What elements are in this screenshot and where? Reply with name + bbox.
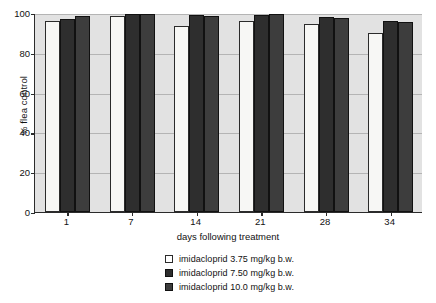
gridline [35, 94, 422, 95]
y-tick-mark [31, 94, 35, 95]
bar [60, 19, 75, 212]
y-tick-label: 100 [4, 9, 30, 19]
gridline [35, 133, 422, 134]
legend-swatch-icon [165, 255, 173, 263]
plot-inner [35, 14, 422, 212]
x-axis-title: days following treatment [34, 231, 422, 242]
bar [254, 15, 269, 212]
y-tick-mark [31, 133, 35, 134]
y-tick-label: 80 [4, 49, 30, 59]
bar-group [45, 14, 90, 212]
y-tick-label: 60 [4, 89, 30, 99]
chart-legend: imidacloprid 3.75 mg/kg b.w.imidacloprid… [165, 252, 405, 294]
x-axis-tick-labels: 1714212834 [34, 216, 422, 230]
bar [189, 15, 204, 212]
gridline [35, 173, 422, 174]
bar [140, 14, 155, 212]
gridline [35, 54, 422, 55]
x-tick-label: 1 [46, 216, 86, 227]
y-tick-mark [31, 213, 35, 214]
bar [398, 22, 413, 212]
bar [125, 14, 140, 212]
bar-group [239, 14, 284, 212]
y-tick-label: 20 [4, 168, 30, 178]
bar-chart-figure: % flea control 020406080100 1714212834 d… [0, 0, 436, 303]
x-tick-label: 28 [305, 216, 345, 227]
bar [110, 16, 125, 212]
bar [334, 18, 349, 212]
y-tick-mark [31, 54, 35, 55]
y-tick-mark [31, 173, 35, 174]
bar [75, 16, 90, 212]
y-tick-mark [31, 14, 35, 15]
bar [383, 21, 398, 212]
bar [304, 24, 319, 212]
legend-swatch-icon [165, 283, 173, 291]
legend-item: imidacloprid 7.50 mg/kg b.w. [165, 266, 405, 280]
legend-item: imidacloprid 3.75 mg/kg b.w. [165, 252, 405, 266]
x-tick-label: 21 [240, 216, 280, 227]
plot-area [34, 14, 422, 213]
bar [45, 21, 60, 212]
legend-label: imidacloprid 3.75 mg/kg b.w. [179, 254, 294, 264]
legend-swatch-icon [165, 269, 173, 277]
bar-group [110, 14, 155, 212]
bar [239, 21, 254, 212]
bar-group [368, 14, 413, 212]
legend-item: imidacloprid 10.0 mg/kg b.w. [165, 280, 405, 294]
bar [368, 33, 383, 212]
y-tick-label: 40 [4, 128, 30, 138]
x-tick-label: 34 [370, 216, 410, 227]
bar-group [304, 14, 349, 212]
bar [319, 17, 334, 212]
bar [174, 26, 189, 212]
bar [269, 14, 284, 212]
legend-label: imidacloprid 10.0 mg/kg b.w. [179, 282, 294, 292]
bar-group [174, 14, 219, 212]
gridline [35, 14, 422, 15]
x-tick-label: 7 [111, 216, 151, 227]
y-axis-tick-labels: 020406080100 [0, 0, 30, 303]
y-tick-label: 0 [4, 208, 30, 218]
bar [204, 16, 219, 212]
legend-label: imidacloprid 7.50 mg/kg b.w. [179, 268, 294, 278]
x-tick-label: 14 [176, 216, 216, 227]
